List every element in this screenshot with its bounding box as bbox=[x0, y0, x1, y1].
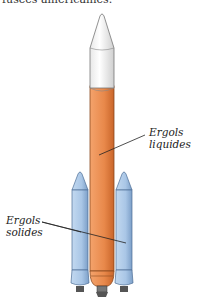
label-line: solides bbox=[6, 226, 43, 238]
right-booster bbox=[115, 172, 133, 292]
label-line: liquides bbox=[149, 138, 191, 150]
label-line: Ergols bbox=[149, 126, 191, 138]
label-ergols-solides: Ergols solides bbox=[6, 214, 43, 238]
core-stage bbox=[90, 86, 114, 297]
payload-fairing bbox=[90, 14, 114, 91]
rocket-diagram bbox=[0, 0, 199, 302]
label-ergols-liquides: Ergols liquides bbox=[149, 126, 191, 150]
label-line: Ergols bbox=[6, 214, 43, 226]
